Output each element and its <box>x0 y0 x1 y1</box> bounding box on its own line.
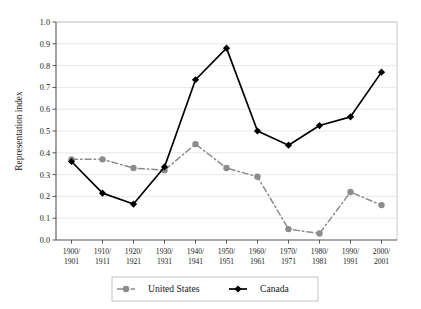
x-tick-label: 1961 <box>250 257 265 266</box>
x-tick-label: 1950/ <box>218 247 236 256</box>
x-tick-label: 1900/ <box>63 247 81 256</box>
y-tick-label: 0.5 <box>40 127 50 136</box>
x-tick-label: 1951 <box>219 257 234 266</box>
x-tick-label: 1901 <box>64 257 79 266</box>
y-tick-label: 0.2 <box>40 192 50 201</box>
x-tick-label: 1970/ <box>280 247 298 256</box>
chart-container: 0.00.10.20.30.40.50.60.70.80.91.0 1900/1… <box>0 0 421 309</box>
y-tick-label: 0.3 <box>40 171 50 180</box>
x-axis-ticks: 1900/19011910/19111920/19211930/19311940… <box>63 240 391 266</box>
x-tick-label: 1981 <box>312 257 327 266</box>
y-tick-label: 0.1 <box>40 214 50 223</box>
x-tick-label: 2001 <box>374 257 389 266</box>
data-point <box>254 174 260 180</box>
data-point <box>316 230 322 236</box>
y-axis-ticks: 0.00.10.20.30.40.50.60.70.80.91.0 <box>40 18 56 245</box>
x-tick-label: 1971 <box>281 257 296 266</box>
y-tick-label: 0.7 <box>40 83 50 92</box>
legend-label: Canada <box>260 283 290 294</box>
x-tick-label: 1930/ <box>156 247 174 256</box>
x-tick-label: 1991 <box>343 257 358 266</box>
x-tick-label: 2000/ <box>373 247 391 256</box>
chart-legend: United StatesCanada <box>112 277 318 301</box>
x-tick-label: 1941 <box>188 257 203 266</box>
data-point <box>99 156 105 162</box>
y-axis-title: Representation index <box>14 91 24 171</box>
x-tick-label: 1920/ <box>125 247 143 256</box>
x-tick-label: 1990/ <box>342 247 360 256</box>
data-point <box>285 226 291 232</box>
data-point <box>192 141 198 147</box>
y-tick-label: 0.4 <box>40 149 50 158</box>
legend-marker-swatch <box>123 286 129 292</box>
x-tick-label: 1910/ <box>94 247 112 256</box>
x-tick-label: 1931 <box>157 257 172 266</box>
legend-label: United States <box>148 283 200 294</box>
x-tick-label: 1940/ <box>187 247 205 256</box>
x-tick-label: 1921 <box>126 257 141 266</box>
y-tick-label: 0.8 <box>40 62 50 71</box>
line-chart: 0.00.10.20.30.40.50.60.70.80.91.0 1900/1… <box>0 0 421 309</box>
y-tick-label: 1.0 <box>40 18 50 27</box>
data-point <box>378 202 384 208</box>
y-tick-label: 0.9 <box>40 40 50 49</box>
data-point <box>223 165 229 171</box>
y-tick-label: 0.6 <box>40 105 50 114</box>
x-tick-label: 1960/ <box>249 247 267 256</box>
x-tick-label: 1911 <box>95 257 110 266</box>
x-tick-label: 1980/ <box>311 247 329 256</box>
data-point <box>347 189 353 195</box>
y-tick-label: 0.0 <box>40 236 50 245</box>
data-point <box>130 165 136 171</box>
